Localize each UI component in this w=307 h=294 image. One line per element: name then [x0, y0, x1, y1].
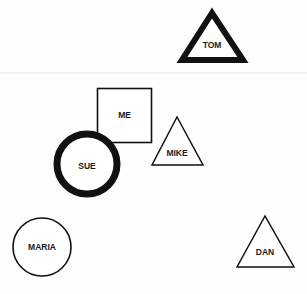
sociogram-diagram: TOM ME SUE MIKE MARIA DAN — [0, 0, 307, 294]
node-label: TOM — [203, 40, 222, 50]
node-label: DAN — [256, 247, 274, 257]
node-tom: TOM — [182, 13, 243, 60]
node-label: SUE — [78, 161, 96, 171]
node-mike: MIKE — [152, 117, 203, 165]
triangle-shape — [182, 13, 243, 60]
node-sue: SUE — [57, 134, 117, 194]
triangle-shape — [237, 216, 294, 267]
node-dan: DAN — [237, 216, 294, 267]
node-label: ME — [118, 110, 131, 120]
node-maria: MARIA — [13, 218, 71, 276]
node-label: MARIA — [28, 242, 56, 252]
sociogram-canvas: TOM ME SUE MIKE MARIA DAN — [0, 0, 307, 294]
node-label: MIKE — [166, 148, 188, 158]
node-me: ME — [98, 89, 152, 143]
